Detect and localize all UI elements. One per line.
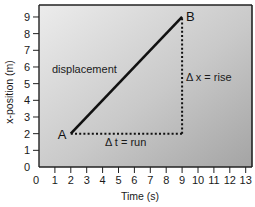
x-tick-label: 9 [179, 174, 185, 186]
x-tick-label: 6 [131, 174, 137, 186]
x-tick-label: 4 [100, 174, 106, 186]
x-tick-label: 10 [192, 174, 204, 186]
y-tick-label: 7 [24, 44, 30, 56]
y-tick-label: 8 [24, 28, 30, 40]
x-tick-label: 1 [52, 174, 58, 186]
displacement-label: displacement [52, 63, 117, 75]
x-tick-label: 11 [208, 174, 219, 186]
y-tick-label: 1 [24, 144, 30, 156]
rise-label: Δ x = rise [186, 71, 232, 83]
x-tick-label: 8 [163, 174, 169, 186]
x-tick-label: 13 [240, 174, 252, 186]
x-tick-label: 0 [33, 174, 39, 186]
y-tick-label: 6 [24, 61, 30, 73]
y-tick-label: 9 [24, 11, 30, 23]
x-tick-label: 3 [84, 174, 90, 186]
y-tick-label: 3 [24, 111, 30, 123]
point-a-label: A [58, 127, 67, 142]
y-axis-title: x-position (m) [3, 60, 15, 124]
run-label: Δ t = run [105, 136, 146, 148]
y-tick-label: 5 [24, 78, 30, 90]
y-tick-label: 4 [24, 94, 30, 106]
x-axis-ticks: 012345678910111213 [33, 167, 252, 186]
x-tick-label: 12 [224, 174, 236, 186]
point-b-label: B [186, 9, 195, 24]
y-tick-label: 2 [24, 128, 30, 140]
x-tick-label: 2 [68, 174, 74, 186]
x-tick-label: 5 [115, 174, 121, 186]
x-axis-title: Time (s) [121, 190, 159, 202]
y-axis-ticks: 0123456789 [24, 11, 39, 173]
x-tick-label: 7 [147, 174, 153, 186]
y-tick-label: 0 [24, 161, 30, 173]
chart: 012345678910111213 0123456789 ABdisplace… [0, 0, 255, 207]
